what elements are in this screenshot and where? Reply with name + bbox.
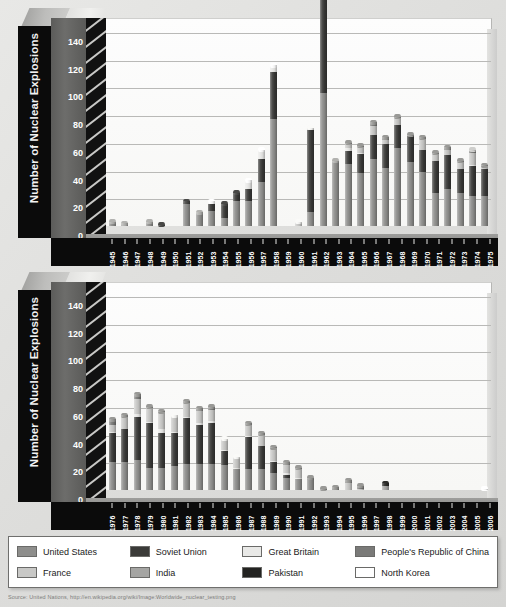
y-axis-tick-label: 80	[53, 384, 83, 394]
bar-segment	[245, 423, 252, 424]
bar-segment	[407, 135, 414, 136]
x-axis-tick-mark	[426, 503, 427, 508]
bar-slot	[230, 19, 242, 226]
x-axis-year-label: 1974	[471, 238, 484, 266]
bar-segment	[221, 439, 228, 450]
bar-segment	[295, 479, 302, 490]
stacked-bar	[233, 193, 240, 226]
bar-segment	[407, 162, 414, 226]
x-axis-year-label: 2000	[408, 502, 421, 530]
bar-cap	[258, 431, 265, 436]
y-axis-title: Number of Nuclear Explosions	[28, 276, 40, 488]
stacked-bar	[270, 447, 277, 490]
bar-slot	[267, 19, 279, 226]
bar-segment	[345, 151, 352, 163]
y-axis-tick-label: 80	[53, 120, 83, 130]
bar-slot	[404, 283, 416, 490]
x-axis-year-label: 1978	[131, 502, 144, 530]
bar-cap	[370, 120, 377, 125]
bar-segment	[258, 182, 265, 226]
bar-cap	[419, 135, 426, 140]
stacked-bar	[121, 223, 128, 226]
y-axis-tick-label: 40	[53, 176, 83, 186]
y-axis-tick-label: 100	[53, 92, 83, 102]
bar-cap	[121, 413, 128, 418]
bar-cap	[221, 436, 228, 441]
bar-segment	[283, 478, 290, 490]
bar-segment	[469, 166, 476, 195]
x-axis-year-label: 1996	[358, 502, 371, 530]
bar-cap	[245, 178, 252, 183]
x-axis-year-label: 1960	[295, 238, 308, 266]
x-axis-year-label: 2005	[471, 502, 484, 530]
stacked-bar	[258, 433, 265, 490]
x-axis-tick-mark	[326, 239, 327, 244]
bar-cap	[307, 475, 314, 480]
bar-segment	[183, 464, 190, 490]
bar-segment	[295, 478, 302, 479]
bar-segment	[258, 446, 265, 470]
bar-segment	[345, 143, 352, 144]
x-axis-tick-mark	[212, 503, 213, 508]
bar-segment	[245, 437, 252, 469]
x-axis-year-label: 1984	[207, 502, 220, 530]
x-axis-tick-mark	[313, 239, 314, 244]
bar-segment	[258, 433, 265, 434]
x-axis-tick-mark	[313, 503, 314, 508]
bar-segment	[432, 193, 439, 226]
chart-side-wall	[86, 18, 106, 238]
bar-slot	[367, 283, 379, 490]
bar-segment	[109, 433, 116, 462]
x-axis-tick-mark	[464, 239, 465, 244]
x-axis-tick-mark	[477, 503, 478, 508]
bar-segment	[171, 433, 178, 466]
bar-cap	[270, 63, 277, 68]
bar-segment	[283, 462, 290, 465]
bar-segment	[183, 417, 190, 418]
bar-segment	[283, 475, 290, 478]
bar-segment	[394, 117, 401, 118]
bar-slot	[479, 283, 491, 490]
bar-segment	[407, 136, 414, 162]
legend-label: People's Republic of China	[381, 547, 489, 557]
bar-segment	[307, 128, 314, 131]
bar-segment	[208, 204, 215, 211]
source-note: Source: United Nations, http://en.wikipe…	[8, 594, 504, 600]
bar-slot	[479, 19, 491, 226]
bar-slot	[305, 19, 317, 226]
bar-cap	[146, 404, 153, 409]
bar-segment	[221, 465, 228, 490]
x-axis-year-label: 2004	[458, 502, 471, 530]
x-axis-year-label: 2001	[420, 502, 433, 530]
x-axis-tick-mark	[326, 503, 327, 508]
bar-segment	[134, 417, 141, 460]
x-axis-tick-mark	[288, 503, 289, 508]
x-axis-tick-mark	[238, 239, 239, 244]
bar-slot	[156, 19, 168, 226]
x-axis-year-label: 1987	[244, 502, 257, 530]
legend-swatch-icon	[355, 546, 375, 557]
bar-slot	[118, 19, 130, 226]
x-axis-year-label: 1958	[270, 238, 283, 266]
bar-segment	[208, 211, 215, 226]
stacked-bar	[245, 180, 252, 226]
bar-segment	[183, 204, 190, 226]
bar-series-group	[106, 19, 491, 226]
bar-slot	[218, 19, 230, 226]
x-axis-tick-mark	[363, 239, 364, 244]
bar-cap	[146, 219, 153, 224]
bar-cap	[283, 460, 290, 465]
bar-segment	[357, 154, 364, 173]
bar-segment	[208, 410, 215, 421]
bar-segment	[221, 450, 228, 451]
x-axis-tick-mark	[338, 239, 339, 244]
x-axis-year-label: 1986	[232, 502, 245, 530]
bar-segment	[158, 411, 165, 412]
bar-segment	[382, 137, 389, 140]
bar-segment	[481, 196, 488, 227]
bar-cap	[183, 399, 190, 404]
legend-swatch-icon	[17, 546, 37, 557]
bar-segment	[357, 146, 364, 147]
bar-cap	[295, 219, 302, 224]
stacked-bar	[208, 407, 215, 490]
